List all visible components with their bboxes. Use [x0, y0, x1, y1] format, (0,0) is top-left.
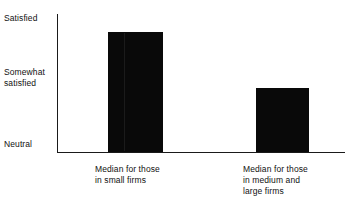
y-axis-label-satisfied: Satisfied	[4, 13, 54, 24]
bar-small-firms-seam	[124, 33, 125, 151]
x-axis-label-medium-large-firms: Median for those in medium and large fir…	[243, 164, 348, 197]
y-axis-label-neutral: Neutral	[4, 139, 54, 150]
bar-chart-figure: Satisfied Somewhat satisfied Neutral Med…	[0, 0, 348, 202]
bar-small-firms	[108, 32, 163, 152]
bar-medium-large-firms	[256, 88, 309, 152]
y-axis-line	[57, 14, 58, 153]
y-axis-label-somewhat-satisfied: Somewhat satisfied	[4, 67, 54, 88]
x-axis-label-small-firms: Median for those in small firms	[95, 164, 205, 186]
x-axis-baseline	[57, 152, 345, 153]
